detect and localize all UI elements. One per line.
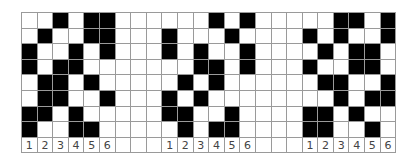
empty-cell bbox=[147, 122, 163, 138]
filled-cell bbox=[318, 75, 334, 91]
filled-cell bbox=[349, 107, 365, 123]
empty-cell bbox=[381, 122, 397, 138]
empty-cell bbox=[256, 91, 272, 107]
empty-cell bbox=[256, 44, 272, 60]
empty-cell bbox=[38, 44, 54, 60]
empty-cell bbox=[69, 29, 85, 45]
empty-cell bbox=[209, 29, 225, 45]
empty-cell bbox=[381, 107, 397, 123]
empty-cell bbox=[240, 75, 256, 91]
filled-cell bbox=[100, 13, 116, 29]
empty-cell bbox=[131, 75, 147, 91]
column-label: 2 bbox=[318, 138, 334, 154]
filled-cell bbox=[381, 91, 397, 107]
filled-cell bbox=[162, 29, 178, 45]
filled-cell bbox=[162, 91, 178, 107]
filled-cell bbox=[240, 13, 256, 29]
filled-cell bbox=[240, 44, 256, 60]
filled-cell bbox=[318, 44, 334, 60]
filled-cell bbox=[318, 122, 334, 138]
empty-cell bbox=[194, 122, 210, 138]
empty-cell bbox=[147, 44, 163, 60]
filled-cell bbox=[209, 122, 225, 138]
empty-cell bbox=[287, 44, 303, 60]
empty-cell bbox=[131, 44, 147, 60]
empty-cell bbox=[209, 91, 225, 107]
blank-label-cell bbox=[256, 138, 272, 154]
blank-label-cell bbox=[147, 138, 163, 154]
filled-cell bbox=[318, 107, 334, 123]
empty-cell bbox=[178, 91, 194, 107]
filled-cell bbox=[303, 29, 319, 45]
empty-cell bbox=[318, 60, 334, 76]
column-label: 1 bbox=[303, 138, 319, 154]
empty-cell bbox=[162, 13, 178, 29]
empty-cell bbox=[116, 60, 132, 76]
filled-cell bbox=[365, 122, 381, 138]
empty-cell bbox=[256, 60, 272, 76]
filled-cell bbox=[84, 75, 100, 91]
filled-cell bbox=[22, 107, 38, 123]
filled-cell bbox=[84, 13, 100, 29]
filled-cell bbox=[209, 13, 225, 29]
filled-cell bbox=[381, 75, 397, 91]
empty-cell bbox=[194, 29, 210, 45]
empty-cell bbox=[178, 60, 194, 76]
empty-cell bbox=[116, 44, 132, 60]
filled-cell bbox=[69, 60, 85, 76]
empty-cell bbox=[303, 44, 319, 60]
empty-cell bbox=[225, 44, 241, 60]
empty-cell bbox=[100, 75, 116, 91]
empty-cell bbox=[272, 44, 288, 60]
empty-cell bbox=[349, 122, 365, 138]
empty-cell bbox=[318, 29, 334, 45]
empty-cell bbox=[53, 29, 69, 45]
empty-cell bbox=[287, 29, 303, 45]
empty-cell bbox=[287, 13, 303, 29]
empty-cell bbox=[365, 29, 381, 45]
empty-cell bbox=[272, 107, 288, 123]
empty-cell bbox=[318, 13, 334, 29]
filled-cell bbox=[194, 91, 210, 107]
empty-cell bbox=[287, 60, 303, 76]
empty-cell bbox=[240, 122, 256, 138]
empty-cell bbox=[225, 75, 241, 91]
filled-cell bbox=[162, 107, 178, 123]
empty-cell bbox=[100, 60, 116, 76]
empty-cell bbox=[38, 60, 54, 76]
empty-cell bbox=[116, 107, 132, 123]
empty-cell bbox=[349, 75, 365, 91]
empty-cell bbox=[162, 60, 178, 76]
column-label: 3 bbox=[334, 138, 350, 154]
column-label: 6 bbox=[100, 138, 116, 154]
filled-cell bbox=[53, 60, 69, 76]
empty-cell bbox=[84, 60, 100, 76]
blank-label-cell bbox=[287, 138, 303, 154]
column-label: 6 bbox=[240, 138, 256, 154]
filled-cell bbox=[178, 122, 194, 138]
filled-cell bbox=[209, 60, 225, 76]
empty-cell bbox=[303, 13, 319, 29]
column-label: 4 bbox=[69, 138, 85, 154]
filled-cell bbox=[194, 60, 210, 76]
empty-cell bbox=[116, 75, 132, 91]
filled-cell bbox=[22, 122, 38, 138]
empty-cell bbox=[100, 107, 116, 123]
empty-cell bbox=[256, 107, 272, 123]
filled-cell bbox=[69, 44, 85, 60]
empty-cell bbox=[178, 13, 194, 29]
empty-cell bbox=[318, 91, 334, 107]
filled-cell bbox=[178, 107, 194, 123]
empty-cell bbox=[53, 107, 69, 123]
empty-cell bbox=[38, 122, 54, 138]
empty-cell bbox=[272, 122, 288, 138]
empty-cell bbox=[69, 91, 85, 107]
empty-cell bbox=[116, 13, 132, 29]
filled-cell bbox=[38, 91, 54, 107]
filled-cell bbox=[365, 60, 381, 76]
empty-cell bbox=[116, 91, 132, 107]
empty-cell bbox=[116, 122, 132, 138]
filled-cell bbox=[240, 60, 256, 76]
empty-cell bbox=[334, 44, 350, 60]
filled-cell bbox=[100, 91, 116, 107]
